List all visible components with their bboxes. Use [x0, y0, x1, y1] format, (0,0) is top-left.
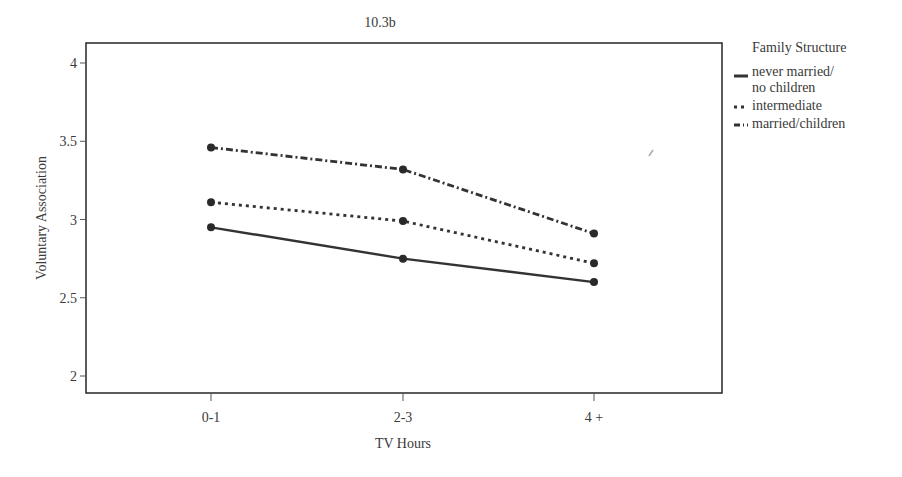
y-tick-label: 3.5: [60, 134, 78, 149]
legend-label: intermediate: [752, 98, 822, 114]
data-point-marker: [590, 259, 598, 267]
legend-item-intermediate: intermediate: [734, 98, 847, 114]
legend-title: Family Structure: [752, 40, 847, 56]
legend-label: married/children: [752, 116, 845, 132]
data-point-marker: [207, 223, 215, 231]
y-axis: 22.533.54: [60, 56, 87, 384]
legend-item-married-children: married/children: [734, 116, 847, 132]
data-point-marker: [399, 165, 407, 173]
data-point-marker: [399, 255, 407, 263]
scan-artifact-mark: [649, 150, 653, 156]
dotted-line-swatch-icon: [734, 98, 750, 112]
legend: Family Structure never married/ no child…: [734, 40, 847, 134]
series-line-dotted: [211, 202, 594, 263]
legend-item-never-married: never married/ no children: [734, 64, 847, 96]
x-tick-label: 2-3: [394, 410, 413, 425]
x-axis: 0-12-34 +: [202, 393, 604, 425]
data-point-marker: [207, 144, 215, 152]
x-tick-label: 0-1: [202, 410, 221, 425]
data-point-marker: [399, 217, 407, 225]
data-point-marker: [590, 278, 598, 286]
y-tick-label: 4: [70, 56, 77, 71]
y-axis-label: Voluntary Association: [34, 156, 49, 280]
series-group: [207, 144, 598, 287]
solid-line-swatch-icon: [734, 64, 750, 78]
y-tick-label: 2.5: [60, 291, 78, 306]
dashdot-line-swatch-icon: [734, 116, 750, 130]
legend-label: never married/ no children: [752, 64, 834, 96]
data-point-marker: [590, 230, 598, 238]
y-tick-label: 2: [70, 369, 77, 384]
x-tick-label: 4 +: [585, 410, 604, 425]
y-tick-label: 3: [70, 213, 77, 228]
x-axis-label: TV Hours: [375, 436, 431, 451]
chart-title: 10.3b: [364, 15, 396, 30]
data-point-marker: [207, 198, 215, 206]
